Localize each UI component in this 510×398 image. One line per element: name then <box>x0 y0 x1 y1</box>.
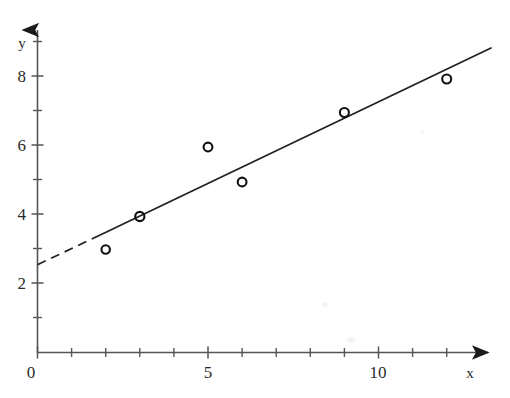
y-axis-label: y <box>18 35 26 51</box>
regression-line-solid-segment <box>96 48 491 237</box>
scatter-plot-figure: 8 6 4 2 0 5 10 y x <box>0 0 510 398</box>
data-point-markers <box>102 75 452 254</box>
data-point <box>340 108 349 117</box>
y-tick-label: 2 <box>18 274 27 293</box>
data-point <box>442 75 451 84</box>
x-axis-label: x <box>466 365 474 381</box>
x-axis-tick-labels: 0 5 10 <box>27 363 387 382</box>
y-tick-label: 6 <box>18 136 27 155</box>
data-point <box>238 178 247 187</box>
y-tick-label: 4 <box>18 205 27 224</box>
regression-line-dashed-segment <box>38 237 97 265</box>
data-point <box>102 245 110 253</box>
x-tick-label-origin: 0 <box>27 363 36 382</box>
regression-line-group <box>38 48 492 265</box>
y-axis-tick-labels: 8 6 4 2 <box>18 67 27 293</box>
x-tick-label: 5 <box>204 363 213 382</box>
axis-group <box>32 30 489 359</box>
data-point <box>204 143 213 152</box>
x-tick-label: 10 <box>370 363 387 382</box>
y-tick-label: 8 <box>18 67 27 86</box>
plot-canvas: 8 6 4 2 0 5 10 y x <box>0 0 510 398</box>
